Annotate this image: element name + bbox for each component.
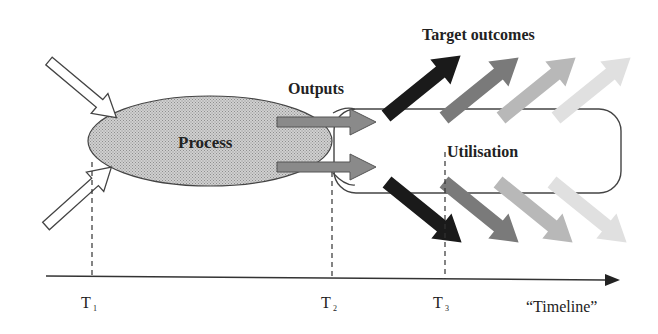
t2-label: T 2 bbox=[321, 294, 337, 313]
timeline-label: “Timeline” bbox=[526, 298, 597, 315]
t3-label: T 3 bbox=[433, 294, 449, 313]
svg-text:T: T bbox=[81, 294, 91, 311]
t1-label: T 1 bbox=[81, 294, 97, 313]
target-outcomes-label: Target outcomes bbox=[422, 26, 535, 44]
svg-text:1: 1 bbox=[93, 304, 97, 313]
outputs-label: Outputs bbox=[288, 80, 344, 98]
process-outcome-diagram: Process Outputs Target outcomes Utilisat… bbox=[0, 0, 658, 334]
svg-text:T: T bbox=[321, 294, 331, 311]
timeline-arrowhead bbox=[605, 274, 620, 286]
svg-text:3: 3 bbox=[445, 304, 449, 313]
utilisation-label: Utilisation bbox=[447, 143, 518, 160]
input-arrow-top bbox=[41, 51, 125, 127]
svg-text:T: T bbox=[433, 294, 443, 311]
svg-text:2: 2 bbox=[333, 304, 337, 313]
input-arrow-bottom bbox=[37, 157, 120, 235]
process-label: Process bbox=[178, 133, 233, 152]
timeline-axis bbox=[46, 276, 605, 280]
